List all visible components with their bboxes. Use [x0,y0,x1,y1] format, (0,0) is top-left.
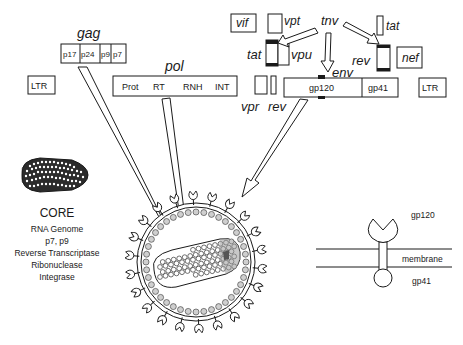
gp120-receptor-icon [368,219,398,243]
core-component-rna-genome: RNA Genome [31,224,84,234]
ltr-left: LTR [28,76,55,94]
pol-label: pol [164,58,185,74]
core-component-ribonuclease: Ribonuclease [31,260,83,270]
vif-label: vif [236,16,250,30]
core-component-reverse-transcriptase: Reverse Transcriptase [14,248,99,258]
core-legend: CORE RNA Genome p7, p9 Reverse Transcrip… [14,206,99,282]
env-segment-gp41: gp41 [368,83,388,93]
pol-segment-rt: RT [153,82,165,92]
rev-right-label: rev [352,53,372,68]
vpr-rev-genes: vpr rev [241,76,288,114]
pol-segment-rnh: RNH [183,82,203,92]
pol-segment-prot: Prot [122,82,139,92]
core-title: CORE [40,206,75,220]
gp41-anchor-icon [374,269,392,287]
ltr-right: LTR [419,78,446,97]
tat-right-label: tat [386,19,400,33]
gp41-stalk [379,242,387,272]
gag-segment-p24: p24 [81,50,95,59]
tat-left-label: tat [247,47,263,62]
rev-right-gene: rev [352,45,390,71]
env-segment-gp120: gp120 [309,83,334,93]
core-component-p7-p9: p7, p9 [45,236,69,246]
vpt-label: vpt [284,14,301,28]
gag-segment-p17: p17 [63,50,77,59]
inset-gp120-label: gp120 [411,210,435,220]
ltr-left-label: LTR [31,81,48,91]
gag-segment-p7: p7 [113,50,122,59]
gag-segment-p9: p9 [101,50,110,59]
gag-gene: gag p17 p24 p9 p7 [61,25,126,63]
hiv-diagram: gag p17 p24 p9 p7 LTR pol Prot RT RNH IN… [0,0,463,345]
hiv-virion [125,191,267,333]
vpt-gene: vpt [268,14,301,33]
tat-right-gene: tat [377,16,400,35]
inset-membrane-label: membrane [402,254,443,264]
vif-gene: vif [231,14,256,32]
core-illustration [22,158,88,192]
rev-left-label: rev [268,99,288,114]
nef-gene: nef [397,47,422,68]
ltr-right-label: LTR [422,83,439,93]
vpr-label: vpr [241,99,260,114]
vpu-label: vpu [291,47,312,62]
inset-gp41-label: gp41 [412,276,431,286]
gag-label: gag [77,25,101,41]
membrane-inset: gp120 membrane gp41 [316,210,452,287]
arrow-tnv-to-vpu [278,28,318,47]
tnv-label: tnv [321,13,340,28]
nef-label: nef [402,51,420,65]
pol-segment-int: INT [215,82,230,92]
arrow-tnv-to-rev [343,22,379,44]
core-component-integrase: Integrase [39,272,75,282]
pol-gene: pol Prot RT RNH INT [113,58,237,96]
